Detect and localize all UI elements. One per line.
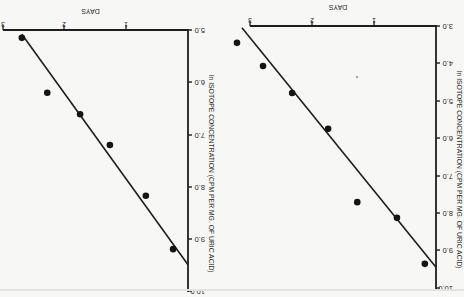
rotated-figure: 5.06.07.08.09.010.0123DAYSln ISOTOPE CON…: [0, 0, 464, 297]
y-tick-label: 6.0: [195, 78, 205, 87]
x-tick-label: 2: [310, 17, 314, 24]
data-point: [422, 261, 429, 268]
y-tick-label: 9.0: [195, 235, 205, 244]
data-point: [260, 63, 267, 70]
left-chart: 5.06.07.08.09.010.0123DAYSln ISOTOPE CON…: [1, 8, 215, 296]
y-tick-label: 3.0: [443, 22, 453, 31]
x-axis-label: DAYS: [81, 8, 100, 15]
right-chart: 3.04.05.06.07.08.09.010.0123DAYSln ISOTO…: [234, 4, 463, 293]
data-point: [325, 126, 332, 133]
data-point: [107, 142, 114, 149]
data-point: [19, 35, 26, 42]
y-tick-label: 4.0: [443, 59, 453, 68]
y-tick-label: 7.0: [195, 131, 205, 140]
y-tick-label: 5.0: [443, 97, 453, 106]
y-tick-label: 8.0: [443, 209, 453, 218]
y-tick-label: 10.0: [438, 284, 453, 293]
y-axis-label: ln ISOTOPE CONCENTRATION (CPM PER MG. OF…: [455, 71, 463, 269]
x-axis-label: DAYS: [328, 4, 347, 11]
x-tick-label: 2: [62, 21, 66, 28]
data-point: [44, 89, 51, 96]
x-tick-label: 1: [372, 17, 376, 24]
y-tick-label: 7.0: [443, 172, 453, 181]
data-point: [143, 192, 150, 199]
data-point: [77, 111, 84, 118]
speck: [356, 76, 358, 78]
x-tick-label: 3: [248, 17, 252, 24]
page-fold-line: [0, 289, 464, 291]
y-tick-label: 8.0: [195, 183, 205, 192]
figure-stage: 5.06.07.08.09.010.0123DAYSln ISOTOPE CON…: [0, 0, 464, 297]
y-axis-label: ln ISOTOPE CONCENTRATION (CPM PER MG. OF…: [207, 75, 215, 273]
y-tick-label: 10.0: [190, 287, 205, 296]
x-tick-label: 3: [1, 21, 5, 28]
data-point: [234, 40, 241, 47]
x-tick-label: 1: [124, 21, 128, 28]
data-point: [394, 215, 401, 222]
regression-line: [242, 28, 436, 267]
data-point: [289, 90, 296, 97]
regression-line: [22, 34, 188, 265]
y-tick-label: 9.0: [443, 246, 453, 255]
y-tick-label: 5.0: [195, 26, 205, 35]
data-point: [354, 199, 361, 206]
y-tick-label: 6.0: [443, 134, 453, 143]
data-point: [170, 246, 177, 253]
